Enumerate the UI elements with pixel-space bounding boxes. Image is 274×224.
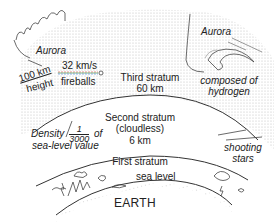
density-word: Density <box>31 128 64 139</box>
third-stratum-label: Third stratum <box>115 72 185 83</box>
fireballs-label: fireballs <box>61 76 95 87</box>
atmosphere-strata-diagram: Aurora 100 km height 32 km/s fireballs T… <box>0 0 274 224</box>
shooting-star-line-1 <box>218 130 246 135</box>
aurora-left-label: Aurora <box>36 45 66 56</box>
lightning-right <box>220 186 223 196</box>
hydrogen-label: hydrogen <box>194 86 264 97</box>
first-stratum-label: First stratum <box>105 156 175 167</box>
stars-label: stars <box>218 153 268 164</box>
second-stratum-note: (cloudless) <box>100 123 180 134</box>
earth-label: EARTH <box>100 198 170 209</box>
cloud-center <box>98 175 106 181</box>
sea-level-label: sea level <box>136 171 175 182</box>
density-suffix: sea-level value <box>32 140 99 151</box>
density-of: of <box>94 128 102 139</box>
composed-of-label: composed of <box>194 75 264 86</box>
shooting-label: shooting <box>218 142 268 153</box>
cloud-center-left <box>74 172 87 178</box>
mountains-icon <box>68 180 90 196</box>
third-stratum-height: 60 km <box>115 83 185 94</box>
speed-label: 32 km/s <box>62 60 97 71</box>
lightning-left <box>61 183 64 196</box>
cloud-right-small <box>238 189 244 193</box>
fireball-icon <box>99 71 103 75</box>
second-stratum-height: 6 km <box>100 135 180 146</box>
aurora-right-label: Aurora <box>201 26 231 37</box>
cloud-right <box>214 171 230 180</box>
second-stratum-label: Second stratum <box>100 112 180 123</box>
